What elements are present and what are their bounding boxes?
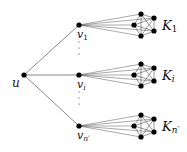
clique-node	[131, 123, 136, 128]
clique-node	[131, 72, 136, 77]
ellipsis-dot	[78, 97, 79, 98]
clique-node	[131, 22, 136, 27]
fan-edge	[79, 75, 154, 81]
clique-node	[151, 78, 156, 83]
clique-node	[138, 112, 143, 117]
root-edge	[24, 75, 79, 126]
branch-label: vi	[77, 78, 86, 92]
clique-node	[138, 61, 143, 66]
clique-node	[138, 33, 143, 38]
fan-edge	[79, 25, 154, 31]
fan-edge	[79, 119, 154, 126]
fan-edge	[79, 25, 141, 36]
clique-node	[138, 83, 143, 88]
fan-edge	[79, 18, 154, 25]
fan-edge	[79, 64, 141, 75]
clique-node	[151, 28, 156, 33]
ellipsis-dot	[78, 53, 79, 54]
clique-label: K1	[161, 18, 177, 34]
clique-node	[151, 129, 156, 134]
clique-node	[151, 15, 156, 20]
ellipsis-dot	[78, 103, 79, 104]
branch-node	[76, 72, 81, 77]
branch-node	[76, 22, 81, 27]
graph-diagram: v1K1viKivn′Kn′u	[0, 0, 187, 152]
clique-node	[138, 11, 143, 16]
fan-edge	[79, 68, 154, 75]
branch-label: vn′	[77, 129, 90, 143]
root-edge	[24, 25, 79, 75]
clique-node	[138, 134, 143, 139]
branch-node	[76, 123, 81, 128]
clique-label: Ki	[161, 68, 175, 84]
clique-label: Kn′	[161, 119, 179, 135]
ellipsis-dot	[78, 91, 79, 92]
root-node	[21, 72, 26, 77]
fan-edge	[79, 14, 141, 25]
ellipsis-dot	[78, 47, 79, 48]
fan-edge	[79, 115, 141, 126]
fan-edge	[79, 75, 141, 86]
clique-node	[151, 65, 156, 70]
clique-node	[151, 116, 156, 121]
root-label: u	[12, 76, 20, 90]
branch-label: v1	[77, 28, 88, 42]
ellipsis-dot	[78, 41, 79, 42]
fan-edge	[79, 126, 154, 132]
